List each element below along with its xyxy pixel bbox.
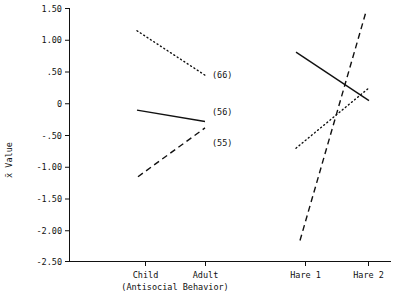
x-tick-label-adult: Adult: [193, 270, 219, 280]
series-label-66: (66): [212, 70, 232, 80]
x-axis-ticks: [146, 262, 369, 267]
series-label-56: (56): [212, 107, 232, 117]
x-axis-group-caption: (Antisocial Behavior): [121, 282, 228, 292]
y-tick-label: -1.50: [36, 194, 62, 204]
y-axis-tick-labels: 1.50 1.00 .50 0 -.50 -1.00 -1.50 -2.00 -…: [36, 4, 62, 267]
y-tick-label: -1.00: [36, 162, 62, 172]
y-tick-label: -2.00: [36, 226, 62, 236]
series-66-right-panel-line: [296, 88, 369, 148]
series-56-right-panel-line: [296, 52, 369, 101]
y-tick-label: .50: [47, 67, 62, 77]
y-tick-label: -.50: [42, 131, 62, 141]
x-axis-tick-labels: Child Adult Hare 1 Hare 2: [133, 270, 384, 280]
series-55-right-panel-line: [300, 12, 366, 241]
y-tick-label: 1.50: [42, 4, 62, 14]
chart-figure: 1.50 1.00 .50 0 -.50 -1.00 -1.50 -2.00 -…: [0, 0, 397, 302]
y-tick-label: -2.50: [36, 257, 62, 267]
x-tick-label-hare-2: Hare 2: [353, 270, 384, 280]
series-56-left-panel-line: [137, 110, 205, 121]
x-tick-label-hare-1: Hare 1: [290, 270, 321, 280]
y-tick-label: 1.00: [42, 35, 62, 45]
series-66-left-panel-line: [137, 31, 205, 75]
chart-canvas: 1.50 1.00 .50 0 -.50 -1.00 -1.50 -2.00 -…: [0, 0, 397, 302]
series-55-left-panel-line: [138, 128, 205, 177]
y-axis-ticks: [65, 9, 70, 262]
x-tick-label-child: Child: [133, 270, 159, 280]
y-tick-label: 0: [57, 99, 62, 109]
series-label-55: (55): [212, 138, 232, 148]
y-axis-title: x̄ Value: [4, 142, 14, 178]
